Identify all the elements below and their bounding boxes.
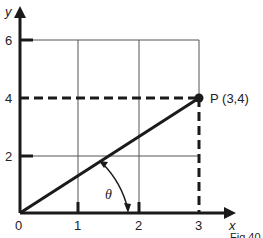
tick-marks	[20, 40, 139, 213]
axes	[20, 14, 228, 213]
x-tick-1: 1	[74, 218, 81, 233]
y-tick-6: 6	[5, 33, 12, 48]
point-p	[195, 94, 204, 103]
y-tick-4: 4	[5, 91, 12, 106]
y-tick-2: 2	[5, 149, 12, 164]
angle-label: θ	[105, 187, 112, 202]
figure-caption: Fig 40.5	[230, 231, 263, 238]
point-label: P (3,4)	[210, 91, 249, 106]
x-tick-2: 2	[135, 218, 142, 233]
x-tick-3: 3	[195, 218, 202, 233]
y-axis-label: y	[4, 4, 13, 19]
y-axis-arrow-icon	[14, 6, 26, 18]
polar-coordinate-diagram: y x 6 4 2 0 1 2 3 P (3,4) θ Fig 40.5	[0, 0, 263, 238]
origin-label: 0	[15, 218, 22, 233]
